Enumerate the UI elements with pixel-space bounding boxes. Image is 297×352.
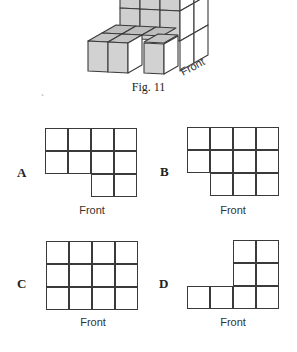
grid-cell	[256, 286, 279, 309]
grid-cell	[210, 150, 233, 173]
grid-cell	[115, 287, 138, 310]
grid-cell	[69, 287, 92, 310]
grid-cell	[210, 127, 233, 150]
grid-cell	[233, 263, 256, 286]
grid-cell	[45, 128, 68, 151]
grid-cell	[187, 150, 210, 173]
grid-cell	[68, 151, 91, 174]
grid-cell	[256, 173, 279, 196]
grid-cell	[92, 287, 115, 310]
option-a-front-label: Front	[42, 204, 142, 216]
grid-cell	[91, 151, 114, 174]
grid-cell	[114, 174, 137, 197]
grid-cell	[233, 240, 256, 263]
option-a-letter: A	[17, 165, 26, 181]
grid-cell	[210, 286, 233, 309]
grid-cell	[69, 264, 92, 287]
figure-caption: Fig. 11	[0, 80, 297, 95]
grid-cell	[69, 241, 92, 264]
option-c-front-label: Front	[43, 316, 143, 328]
grid-cell	[68, 128, 91, 151]
grid-cell	[92, 264, 115, 287]
grid-cell	[114, 151, 137, 174]
grid-cell	[233, 286, 256, 309]
grid-cell	[92, 241, 115, 264]
grid-cell	[210, 173, 233, 196]
grid-cell	[46, 287, 69, 310]
grid-cell	[256, 240, 279, 263]
grid-cell	[256, 263, 279, 286]
option-b-letter: B	[160, 164, 169, 180]
grid-cell	[91, 128, 114, 151]
grid-cell	[91, 174, 114, 197]
grid-cell	[115, 241, 138, 264]
grid-cell	[187, 127, 210, 150]
grid-cell	[45, 151, 68, 174]
grid-cell	[46, 264, 69, 287]
option-c-letter: C	[17, 276, 26, 292]
grid-cell	[233, 127, 256, 150]
option-d-grid[interactable]	[187, 240, 281, 311]
option-a-grid[interactable]	[45, 128, 139, 199]
option-c-grid[interactable]	[46, 241, 140, 312]
grid-cell	[233, 150, 256, 173]
option-b-front-label: Front	[183, 204, 283, 216]
grid-cell	[115, 264, 138, 287]
stray-mark: `	[41, 93, 44, 103]
cube-stack-figure: Front	[0, 0, 297, 80]
grid-cell	[256, 150, 279, 173]
grid-cell	[256, 127, 279, 150]
grid-cell	[233, 173, 256, 196]
option-d-letter: D	[159, 276, 168, 292]
option-b-grid[interactable]	[187, 127, 281, 198]
grid-cell	[187, 286, 210, 309]
grid-cell	[114, 128, 137, 151]
grid-cell	[46, 241, 69, 264]
option-d-front-label: Front	[183, 316, 283, 328]
